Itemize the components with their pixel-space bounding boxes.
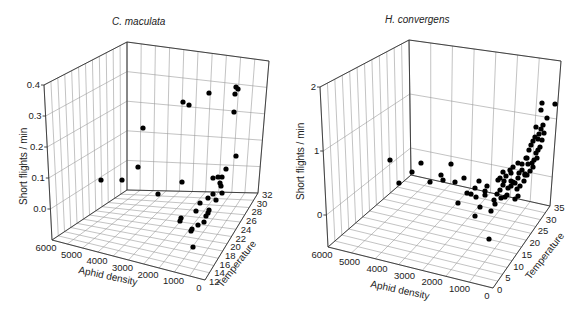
data-point — [477, 204, 482, 209]
x-tick-label: 0 — [196, 282, 201, 293]
data-point — [461, 175, 466, 180]
data-point — [205, 195, 210, 200]
x-tick-label: 2000 — [421, 276, 442, 287]
data-point — [195, 222, 200, 227]
data-point — [438, 172, 443, 177]
data-point — [193, 208, 198, 213]
data-point — [155, 191, 160, 196]
data-point — [210, 175, 215, 180]
y-tick-label: 10 — [513, 261, 524, 272]
x-tick-label: 6000 — [35, 242, 56, 253]
y-tick-label: 0 — [497, 284, 502, 295]
data-point — [526, 147, 531, 152]
x-tick-label: 5000 — [339, 256, 360, 267]
data-point — [135, 164, 140, 169]
data-point — [201, 219, 206, 224]
y-tick-label: 30 — [546, 214, 557, 225]
data-point — [178, 215, 183, 220]
data-point — [510, 179, 515, 184]
x-tick-label: 1000 — [449, 283, 470, 294]
y-tick-label: 20 — [530, 237, 541, 248]
data-point — [387, 157, 392, 162]
data-points — [98, 84, 240, 249]
data-point — [197, 200, 202, 205]
data-point — [544, 115, 549, 120]
data-point — [488, 208, 493, 213]
data-point — [536, 131, 541, 136]
data-point — [507, 167, 512, 172]
data-point — [495, 177, 500, 182]
data-point — [500, 182, 505, 187]
y-tick-label: 5 — [505, 272, 510, 283]
data-point — [472, 185, 477, 190]
data-point — [427, 179, 432, 184]
x-tick-label: 6000 — [311, 249, 332, 260]
data-point — [396, 180, 401, 185]
data-point — [440, 177, 445, 182]
chart-title: C. maculata — [112, 16, 166, 27]
data-point — [500, 169, 505, 174]
data-point — [98, 177, 103, 182]
data-point — [533, 124, 538, 129]
data-point — [203, 213, 208, 218]
data-point — [517, 183, 522, 188]
data-point — [534, 155, 539, 160]
y-tick-label: 35 — [554, 202, 565, 213]
data-point — [233, 153, 238, 158]
chart-h-convergens: H. convergens 012 6000500040003000200010… — [295, 14, 566, 301]
data-point — [409, 169, 414, 174]
data-point — [219, 174, 224, 179]
x-tick-label: 4000 — [366, 263, 387, 274]
data-point — [206, 90, 211, 95]
data-point — [523, 155, 528, 160]
x-tick-label: 0 — [484, 290, 489, 301]
data-point — [180, 99, 185, 104]
data-point — [179, 179, 184, 184]
data-point — [455, 200, 460, 205]
data-point — [190, 244, 195, 249]
chart-c-maculata: C. maculata 0.00.10.20.30.4 600050004000… — [18, 16, 273, 293]
x-tick-label: 5000 — [61, 249, 82, 260]
data-point — [530, 164, 535, 169]
data-point — [515, 175, 520, 180]
data-point — [418, 160, 423, 165]
x-tick-label: 2000 — [137, 269, 158, 280]
figure: C. maculata 0.00.10.20.30.4 600050004000… — [0, 0, 577, 318]
z-tick-label: 2 — [311, 81, 316, 92]
data-point — [522, 172, 527, 177]
data-point — [484, 183, 489, 188]
data-point — [504, 192, 509, 197]
data-point — [482, 192, 487, 197]
z-tick-label: 0.0 — [33, 203, 46, 214]
data-point — [119, 177, 124, 182]
data-point — [448, 161, 453, 166]
data-point — [541, 130, 546, 135]
data-point — [539, 137, 544, 142]
z-tick-label: 0.2 — [30, 141, 43, 152]
x-tick-label: 4000 — [86, 255, 107, 266]
y-tick-label: 15 — [521, 249, 532, 260]
data-point — [472, 213, 477, 218]
data-point — [218, 183, 223, 188]
z-tick-label: 0.3 — [28, 110, 41, 121]
data-point — [231, 109, 236, 114]
data-point — [223, 166, 228, 171]
data-point — [521, 178, 526, 183]
data-point — [476, 178, 481, 183]
data-point — [235, 86, 240, 91]
y-tick-label: 32 — [262, 189, 273, 200]
data-point — [552, 101, 557, 106]
data-point — [494, 191, 499, 196]
z-tick-label: 0.4 — [27, 79, 40, 90]
data-point — [213, 197, 218, 202]
chart-title: H. convergens — [385, 14, 449, 25]
data-point — [537, 144, 542, 149]
data-point — [512, 196, 517, 201]
data-point — [232, 91, 237, 96]
data-point — [140, 125, 145, 130]
data-point — [486, 236, 491, 241]
z-axis-label: Short flights / min — [18, 128, 29, 205]
data-point — [539, 100, 544, 105]
y-axis-ticks: 1214161820222426283032 — [209, 189, 273, 287]
z-tick-label: 0.1 — [32, 172, 45, 183]
